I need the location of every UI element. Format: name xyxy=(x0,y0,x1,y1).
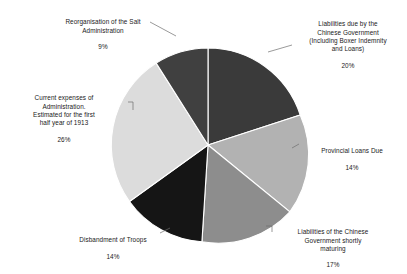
pie-label-percent: 14% xyxy=(52,253,174,261)
pie-label-percent: 20% xyxy=(292,62,404,70)
pie-label-text: Liabilities due by the Chinese Governmen… xyxy=(292,20,404,53)
pie-label-disbandment-of-troops: Disbandment of Troops 14% xyxy=(52,228,174,269)
pie-label-percent: 9% xyxy=(36,43,170,51)
pie-label-text: Disbandment of Troops xyxy=(52,236,174,244)
pie-label-percent: 14% xyxy=(300,164,404,172)
pie-label-percent: 26% xyxy=(4,136,124,144)
pie-label-text: Provincial Loans Due xyxy=(300,147,404,155)
pie-label-text: Reorganisation of the Salt Administratio… xyxy=(36,18,170,35)
pie-label-reorganisation-salt-administration: Reorganisation of the Salt Administratio… xyxy=(36,10,170,60)
pie-label-text: Liabilities of the Chinese Government sh… xyxy=(272,228,394,253)
pie-label-liabilities-shortly-maturing: Liabilities of the Chinese Government sh… xyxy=(272,220,394,274)
leader-line-liabilities-boxer-indemnity xyxy=(268,45,292,52)
pie-label-current-expenses-administration: Current expenses of Administration. Esti… xyxy=(4,86,124,152)
pie-label-text: Current expenses of Administration. Esti… xyxy=(4,94,124,127)
pie-chart: Reorganisation of the Salt Administratio… xyxy=(0,0,407,274)
pie-label-provincial-loans-due: Provincial Loans Due 14% xyxy=(300,139,404,180)
pie-slices xyxy=(111,48,308,243)
pie-label-liabilities-boxer-indemnity: Liabilities due by the Chinese Governmen… xyxy=(292,12,404,78)
pie-label-percent: 17% xyxy=(272,261,394,269)
